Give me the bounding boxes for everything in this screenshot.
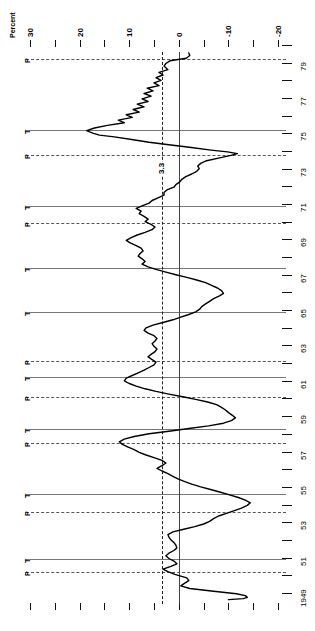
chart-figure: Percent 3020100-10-20 797775737169676563… bbox=[0, 0, 315, 631]
data-curve bbox=[0, 0, 315, 631]
